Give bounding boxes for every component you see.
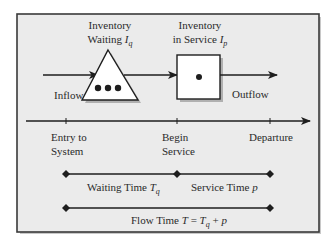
queue-item-dot <box>115 85 121 91</box>
event-entry-line1: Entry to <box>51 131 87 143</box>
diagram-frame <box>17 14 319 232</box>
queue-item-dot <box>95 85 101 91</box>
process-flow-diagram: Inventory Waiting Iq Inventory in Servic… <box>0 0 336 246</box>
outflow-label: Outflow <box>232 88 269 100</box>
inflow-label: Inflow <box>54 89 83 101</box>
queue-item-dot <box>105 85 111 91</box>
queue-title-line1: Inventory <box>89 19 132 31</box>
event-begin-line2: Service <box>162 145 195 157</box>
event-entry-line2: System <box>51 145 84 157</box>
event-departure-line1: Departure <box>249 131 293 143</box>
server-item-dot <box>196 74 202 80</box>
service-time-label: Service Time p <box>191 181 258 193</box>
event-begin-line1: Begin <box>162 131 189 143</box>
server-title-line1: Inventory <box>179 19 222 31</box>
